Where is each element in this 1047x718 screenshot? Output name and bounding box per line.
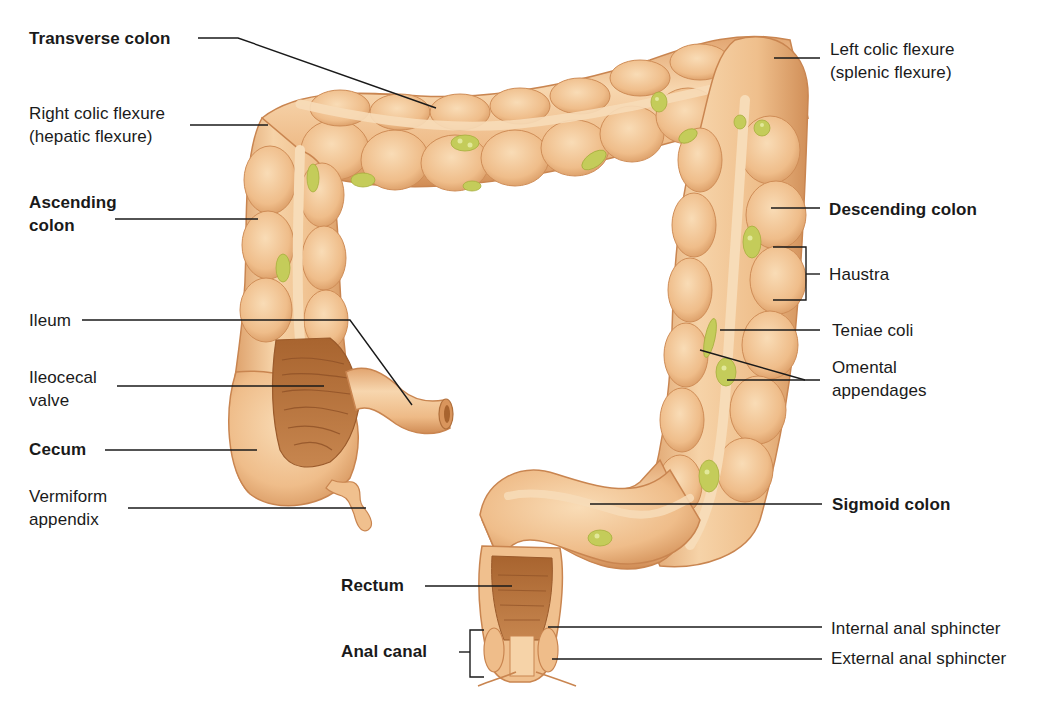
label-sigmoid-colon: Sigmoid colon xyxy=(832,493,950,516)
label-rectum: Rectum xyxy=(341,574,404,597)
label-left-colic-flexure: Left colic flexure (splenic flexure) xyxy=(830,38,955,84)
label-haustra: Haustra xyxy=(829,263,889,286)
large-intestine-diagram: Transverse colon Right colic flexure (he… xyxy=(0,0,1047,718)
label-transverse-colon: Transverse colon xyxy=(29,27,170,50)
label-ileum: Ileum xyxy=(29,309,71,332)
label-anal-canal: Anal canal xyxy=(341,640,427,663)
label-vermiform-appendix: Vermiform appendix xyxy=(29,485,107,531)
label-teniae-coli: Teniae coli xyxy=(832,319,913,342)
label-omental-appendages: Omental appendages xyxy=(832,356,927,402)
label-internal-anal-sphincter: Internal anal sphincter xyxy=(831,617,1001,640)
label-right-colic-flexure: Right colic flexure (hepatic flexure) xyxy=(29,102,165,148)
ileum-shape xyxy=(346,368,453,433)
bracket-anal-canal xyxy=(470,630,484,677)
label-cecum: Cecum xyxy=(29,438,86,461)
label-ileocecal-valve: Ileocecal valve xyxy=(29,366,97,412)
label-external-anal-sphincter: External anal sphincter xyxy=(831,647,1006,670)
label-ascending-colon: Ascending colon xyxy=(29,191,117,237)
rectum-shape xyxy=(478,546,576,686)
label-descending-colon: Descending colon xyxy=(829,198,977,221)
